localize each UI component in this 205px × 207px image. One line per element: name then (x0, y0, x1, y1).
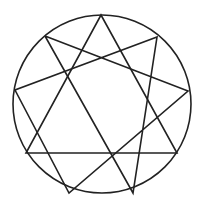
enneagram-triangle (26, 15, 177, 153)
enneagram-diagram (0, 0, 205, 207)
enneagram-circle (13, 15, 191, 193)
